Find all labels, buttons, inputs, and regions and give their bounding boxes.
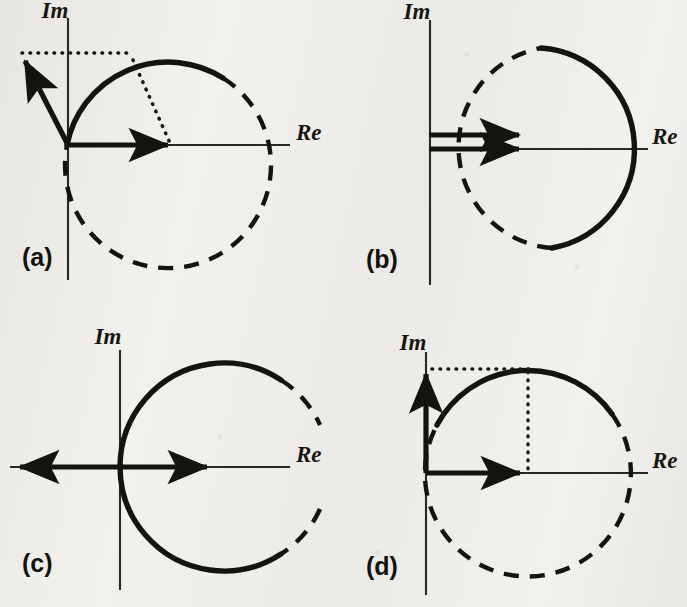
panel-c-dashed-arc-upper <box>281 380 320 425</box>
panel-c-dashed-arc-lower <box>281 509 320 554</box>
panel-d-caption: (d) <box>366 552 398 580</box>
panel-d-re-label: Re <box>651 448 678 473</box>
panel-a-im-label: Im <box>41 0 69 23</box>
panel-a-dotted-radius <box>133 60 170 143</box>
panel-c-im-label: Im <box>94 324 122 349</box>
panel-b-im-label: Im <box>403 0 431 24</box>
panel-a: Im Re (a) <box>22 0 322 280</box>
panel-a-dashed-arc <box>65 78 271 268</box>
panel-a-re-label: Re <box>295 120 322 145</box>
panel-c: Im Re (c) <box>10 324 322 590</box>
panel-c-re-label: Re <box>295 442 322 467</box>
panel-a-solid-arc <box>67 62 223 145</box>
panel-b-re-label: Re <box>651 124 678 149</box>
panel-b: Im Re (b) <box>366 0 678 285</box>
panel-c-caption: (c) <box>22 549 53 577</box>
panel-d-solid-arc <box>437 370 612 425</box>
panel-a-phasor-arrow <box>25 61 68 145</box>
panel-a-caption: (a) <box>22 243 53 271</box>
panel-d-im-label: Im <box>399 330 427 355</box>
figure-svg: Im Re (a) Im Re (b) <box>0 0 687 607</box>
panel-d: Im Re (d) <box>366 330 678 595</box>
panel-b-caption: (b) <box>366 245 398 273</box>
figure-canvas: Im Re (a) Im Re (b) <box>0 0 687 607</box>
